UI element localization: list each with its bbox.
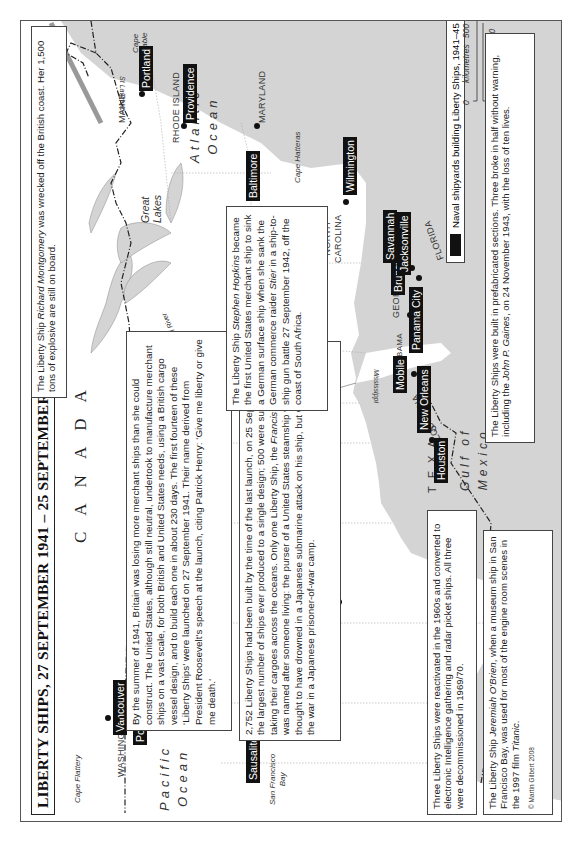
raider-name: Stier bbox=[267, 269, 278, 289]
map-frame: LIBERTY SHIPS, 27 SEPTEMBER 1941 – 25 SE… bbox=[20, 20, 562, 822]
state-label-maryland: MARYLAND bbox=[257, 71, 267, 123]
shipyard-wilmington[interactable]: Wilmington bbox=[343, 137, 357, 195]
scale-km-zero: 0 bbox=[461, 100, 471, 105]
feature-label-sf-bay-line2: Bay bbox=[278, 754, 288, 805]
shipyard-providence[interactable]: Providence bbox=[183, 64, 197, 123]
feature-label-mississippi: Mississippi bbox=[373, 369, 380, 403]
note-jeremiah-obrien: The Liberty Ship Jeremiah O’Brien, when … bbox=[483, 530, 553, 815]
scale-km-label: kilometres bbox=[461, 44, 471, 83]
state-label-north-carolina-line2: CAROLINA bbox=[333, 215, 344, 263]
feature-label-great-lakes-line1: Great bbox=[139, 195, 151, 223]
note-prefabricated: The Liberty Ships were built in prefabri… bbox=[485, 33, 535, 443]
state-label-rhode-island: RHODE ISLAND bbox=[171, 72, 181, 143]
map-canvas: LIBERTY SHIPS, 27 SEPTEMBER 1941 – 25 SE… bbox=[21, 21, 562, 822]
ship-name: Richard Montgomery bbox=[35, 230, 46, 319]
note-richard-montgomery: The Liberty Ship Richard Montgomery was … bbox=[31, 26, 67, 398]
map-title: LIBERTY SHIPS, 27 SEPTEMBER 1941 – 25 SE… bbox=[31, 350, 55, 815]
shipyard-sausalito[interactable]: Sausalito bbox=[246, 734, 260, 783]
scale-km-max: 500 bbox=[461, 24, 471, 38]
shipyard-baltimore[interactable]: Baltimore bbox=[246, 151, 260, 201]
shipyard-dot-portland-or bbox=[114, 717, 120, 723]
shipyard-dot-portland-me bbox=[139, 91, 145, 97]
shipyard-dot-wilmington bbox=[343, 199, 349, 205]
ocean-label-pacific-line1: Pacific bbox=[156, 745, 174, 811]
ship-name: Stephen Hopkins bbox=[230, 255, 241, 330]
film-name: Titanic bbox=[510, 723, 521, 751]
shipyard-new-orleans[interactable]: New Orleans bbox=[417, 366, 431, 433]
shipyard-dot-vancouver bbox=[105, 715, 111, 721]
ocean-label-atlantic-line2: Ocean bbox=[204, 88, 222, 163]
shipyard-dot-jacksonville bbox=[416, 275, 422, 281]
feature-label-great-lakes: Great Lakes bbox=[139, 195, 163, 223]
feature-label-great-lakes-line2: Lakes bbox=[151, 195, 163, 223]
shipyard-jacksonville[interactable]: Jacksonville bbox=[397, 212, 411, 275]
note-stephen-hopkins: The Liberty Ship Stephen Hopkins became … bbox=[226, 206, 328, 411]
note-text: The Liberty Ship bbox=[487, 736, 498, 809]
shipyard-panama-city[interactable]: Panama City bbox=[409, 287, 423, 353]
note-text: . bbox=[510, 721, 521, 724]
shipyard-mobile[interactable]: Mobile bbox=[393, 356, 407, 393]
note-text: , on 24 November 1943, with the loss of … bbox=[500, 107, 511, 317]
note-text: The Liberty Ship bbox=[230, 330, 241, 405]
note-origin: By the summer of 1941, Britain was losin… bbox=[126, 331, 232, 731]
feature-label-cape-flattery: Cape Flattery bbox=[73, 755, 82, 803]
note-reactivated: Three Liberty Ships were reactivated in … bbox=[427, 510, 477, 815]
shipyard-legend-swatch-icon bbox=[450, 234, 461, 256]
shipyard-savannah[interactable]: Savannah bbox=[383, 210, 397, 263]
ship-name: Jeremiah O’Brien bbox=[487, 662, 498, 736]
shipyard-dot-baltimore bbox=[254, 123, 260, 129]
legend-label: Naval shipyards building Liberty Ships, … bbox=[450, 23, 461, 228]
feature-label-san-francisco-bay: San Francisco Bay bbox=[268, 754, 288, 805]
shipyard-portland-me[interactable]: Portland bbox=[139, 46, 153, 91]
feature-label-sf-bay-line1: San Francisco bbox=[268, 754, 278, 805]
feature-label-st-lawrence: St Lawrence bbox=[119, 76, 126, 115]
shipyard-vancouver[interactable]: Vancouver bbox=[113, 680, 127, 735]
copyright: © Martin Gilbert 2008 bbox=[526, 536, 537, 809]
country-label-canada: CANADA bbox=[71, 374, 91, 543]
ocean-label-pacific: Pacific Ocean bbox=[156, 745, 192, 811]
ship-name: John P. Gaines bbox=[500, 316, 511, 380]
shipyard-houston[interactable]: Houston bbox=[434, 438, 448, 483]
note-text: The Liberty Ship bbox=[35, 319, 46, 392]
shipyard-dot-mobile bbox=[411, 371, 417, 377]
feature-label-cape-hatteras: Cape Hatteras bbox=[293, 131, 302, 183]
ocean-label-gulf-line1: Gulf of bbox=[456, 428, 474, 491]
shipyard-dot-providence bbox=[181, 123, 187, 129]
ocean-label-pacific-line2: Ocean bbox=[174, 745, 192, 811]
